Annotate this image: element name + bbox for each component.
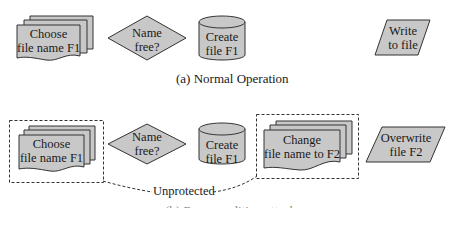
caption-b: (b) Race condition attack [165,203,296,208]
unprotected-label: Unprotected [153,184,215,199]
b-change-label-line2: file name to F2 [264,147,340,161]
unprotected-dashed-connector-right [213,176,257,192]
b-namefree-label-line2: free? [117,144,177,158]
b-create-label-line1: Create [199,138,245,152]
a-namefree-label-line1: Name [117,26,177,40]
a-create-label-line2: file F1 [199,44,245,58]
b-overwrite-label-line2: file F2 [370,145,442,159]
a-choose-label-line2: file name F1 [17,41,80,55]
a-choose-label: Choose file name F1 [17,27,80,55]
a-choose-label-line1: Choose [17,27,80,41]
a-create-label-line1: Create [199,30,245,44]
unprotected-dashed-connector-left [103,181,152,192]
b-choose-label: Choose file name F1 [19,137,84,165]
b-namefree-label-line1: Name [117,130,177,144]
a-create-label: Create file F1 [199,30,245,58]
b-change-label: Change file name to F2 [264,133,340,161]
b-create-label-line2: file F1 [199,152,245,166]
a-namefree-label: Name free? [117,26,177,54]
a-write-label-line2: to file [378,38,428,52]
b-change-label-line1: Change [264,133,340,147]
b-choose-label-line2: file name F1 [19,151,84,165]
b-overwrite-label-line1: Overwrite [370,131,442,145]
b-namefree-label: Name free? [117,130,177,158]
a-write-label-line1: Write [378,24,428,38]
b-choose-label-line1: Choose [19,137,84,151]
b-overwrite-label: Overwrite file F2 [370,131,442,159]
b-create-label: Create file F1 [199,138,245,166]
caption-a: (a) Normal Operation [176,71,289,87]
a-namefree-label-line2: free? [117,40,177,54]
a-write-label: Write to file [378,24,428,52]
